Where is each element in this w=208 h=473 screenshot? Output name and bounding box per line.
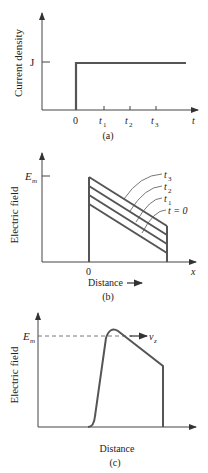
- svg-text:0: 0: [73, 115, 78, 126]
- y-label: Current density: [12, 28, 24, 97]
- svg-text:m: m: [32, 177, 37, 185]
- field-pulse: [88, 330, 163, 427]
- svg-text:z: z: [153, 337, 157, 345]
- svg-text:Electric field: Electric field: [8, 186, 20, 244]
- svg-text:2: 2: [168, 187, 172, 195]
- figure: Current density J 0 t 1 t 2 t 3 t (a) t …: [0, 0, 208, 473]
- svg-text:Distance: Distance: [88, 277, 124, 288]
- svg-text:0: 0: [86, 266, 91, 277]
- svg-text:3: 3: [155, 121, 159, 129]
- svg-text:Distance: Distance: [100, 443, 136, 454]
- panel-a: Current density J 0 t 1 t 2 t 3 t (a): [12, 13, 198, 142]
- svg-text:t: t: [125, 115, 128, 126]
- svg-text:t: t: [99, 115, 102, 126]
- svg-text:Electric field: Electric field: [8, 346, 20, 404]
- svg-text:(b): (b): [102, 291, 114, 303]
- svg-text:t: t: [151, 115, 154, 126]
- svg-text:t: t: [164, 169, 167, 180]
- svg-text:t: t: [192, 115, 195, 126]
- svg-text:x: x: [190, 266, 196, 277]
- svg-text:t = 0: t = 0: [168, 205, 188, 216]
- panel-c: Electric field E m v z Distance (c): [8, 313, 196, 469]
- level-label: J: [30, 56, 35, 68]
- svg-text:t: t: [164, 181, 167, 192]
- panel-b: t 3 t 2 t 1 t = 0 Electric field E m 0 x…: [8, 153, 196, 303]
- svg-text:E: E: [22, 330, 30, 342]
- svg-text:2: 2: [129, 121, 133, 129]
- svg-text:t: t: [164, 193, 167, 204]
- current-step: [76, 63, 186, 110]
- svg-text:3: 3: [168, 175, 172, 183]
- svg-text:1: 1: [103, 121, 107, 129]
- svg-text:(a): (a): [102, 130, 113, 142]
- svg-text:m: m: [30, 337, 35, 345]
- svg-text:(c): (c): [109, 457, 120, 469]
- svg-text:E: E: [24, 170, 32, 182]
